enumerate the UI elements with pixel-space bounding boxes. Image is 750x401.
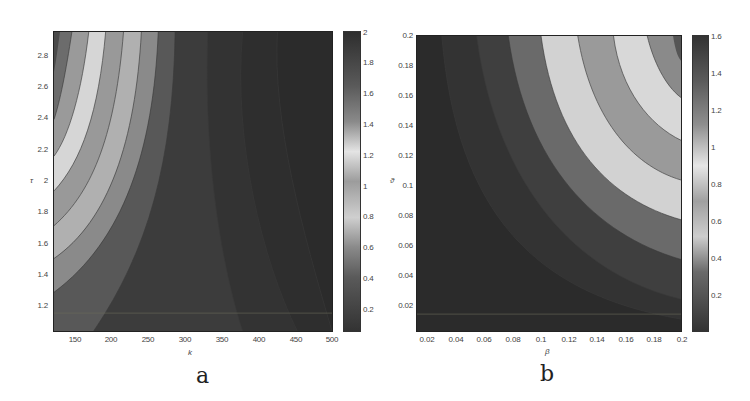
colorbar-tick: 0.6	[711, 218, 722, 226]
x-tick: 0.18	[639, 336, 669, 344]
colorbar-tick: 1.4	[711, 70, 722, 78]
colorbar-tick: 1.6	[711, 33, 722, 41]
colorbar-b	[692, 35, 709, 332]
colorbar-tick: 1.2	[711, 107, 722, 115]
colorbar-tick: 1	[711, 144, 715, 152]
x-tick: 0.14	[582, 336, 612, 344]
contour-bands-b	[417, 36, 681, 331]
colorbar-tick: 0.8	[711, 181, 722, 189]
y-tick: 0.04	[387, 272, 413, 280]
panel-b: 0.2 0.18 0.16 0.14 0.12 0.1 0.08 0.06 0.…	[0, 0, 750, 401]
y-tick: 0.2	[387, 32, 413, 40]
y-tick: 0.12	[387, 152, 413, 160]
y-axis-label-b: ϑ	[390, 176, 394, 185]
x-tick: 0.12	[554, 336, 584, 344]
x-axis-label-b: β	[545, 347, 550, 356]
x-tick: 0.06	[469, 336, 499, 344]
panel-caption-b: b	[540, 361, 554, 386]
x-tick: 0.16	[611, 336, 641, 344]
contour-plot-b	[416, 35, 682, 332]
y-tick: 0.16	[387, 92, 413, 100]
x-tick: 0.08	[498, 336, 528, 344]
x-tick: 0.2	[667, 336, 697, 344]
y-tick: 0.08	[387, 212, 413, 220]
colorbar-tick: 0.4	[711, 255, 722, 263]
x-tick: 0.02	[412, 336, 442, 344]
x-tick: 0.04	[441, 336, 471, 344]
colorbar-tick: 0.2	[711, 292, 722, 300]
y-tick: 0.06	[387, 242, 413, 250]
y-tick: 0.14	[387, 122, 413, 130]
x-tick: 0.1	[526, 336, 556, 344]
y-tick: 0.18	[387, 62, 413, 70]
y-tick: 0.02	[387, 302, 413, 310]
